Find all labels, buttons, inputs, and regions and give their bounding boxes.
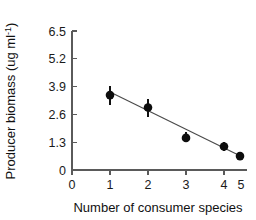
y-tick-label-4: 5.2 bbox=[49, 52, 66, 66]
data-point-4 bbox=[220, 142, 229, 151]
y-axis-title-superscript: -1 bbox=[3, 27, 13, 35]
y-tick-label-0: 0 bbox=[59, 164, 66, 178]
x-tick-label-0: 0 bbox=[69, 178, 76, 192]
data-point-2 bbox=[144, 103, 153, 112]
producer-biomass-scatter-plot: Producer biomass (ug ml-1) 0 1.3 2.6 3.9… bbox=[0, 0, 256, 220]
x-tick-label-1: 1 bbox=[107, 178, 114, 192]
y-axis-title-main: Producer biomass (ug ml bbox=[3, 35, 18, 180]
y-tick-label-3: 3.9 bbox=[49, 80, 66, 94]
y-axis-title-tail: ) bbox=[3, 23, 18, 27]
data-point-1 bbox=[106, 91, 115, 100]
data-points bbox=[106, 91, 245, 161]
y-axis-tick-labels: 0 1.3 2.6 3.9 5.2 6.5 bbox=[49, 25, 66, 178]
y-tick-label-1: 1.3 bbox=[49, 136, 66, 150]
y-axis-title: Producer biomass (ug ml-1) bbox=[3, 23, 18, 180]
y-tick-label-5: 6.5 bbox=[49, 25, 66, 39]
y-axis-ticks bbox=[72, 31, 77, 170]
data-point-3 bbox=[182, 134, 191, 143]
x-tick-label-2: 2 bbox=[145, 178, 152, 192]
x-tick-label-3: 3 bbox=[183, 178, 190, 192]
x-axis-ticks bbox=[72, 170, 224, 175]
x-tick-label-4: 4 bbox=[221, 178, 228, 192]
x-axis-title: Number of consumer species bbox=[73, 200, 243, 215]
chart-figure: Producer biomass (ug ml-1) 0 1.3 2.6 3.9… bbox=[0, 0, 256, 220]
svg-text:Producer biomass (ug ml-1): Producer biomass (ug ml-1) bbox=[3, 23, 18, 180]
x-axis-tick-labels: 0 1 2 3 4 5 bbox=[69, 178, 245, 192]
data-point-5 bbox=[236, 152, 245, 161]
y-tick-label-2: 2.6 bbox=[49, 108, 66, 122]
x-tick-label-5: 5 bbox=[238, 178, 245, 192]
